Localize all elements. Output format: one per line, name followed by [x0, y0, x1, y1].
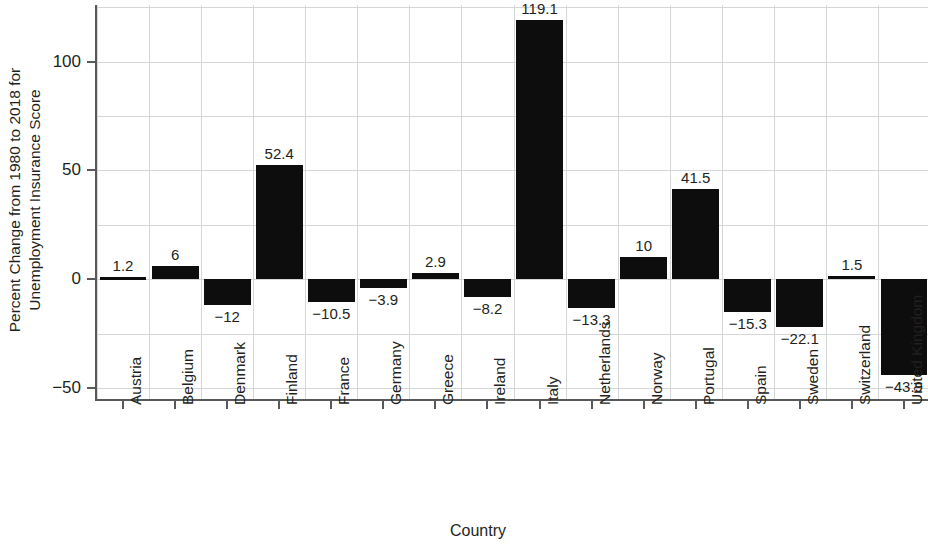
gridline-horizontal-minor [97, 7, 928, 8]
gridline-horizontal-major [97, 170, 928, 171]
gridline-vertical [878, 5, 879, 399]
bar [724, 279, 771, 312]
y-axis-tick-label: −50 [52, 378, 81, 398]
bar [412, 273, 459, 279]
y-axis-tick-label: 100 [53, 52, 81, 72]
bar [776, 279, 823, 327]
plot-area: 100500−50 1.26−1252.4−10.5−3.92.9−8.2119… [95, 5, 928, 401]
bar [516, 20, 563, 279]
x-axis-category-text: Portugal [700, 347, 718, 405]
y-axis-tick-label: 50 [62, 160, 81, 180]
x-axis-category-text: Italy [544, 377, 562, 405]
y-axis-title-line-2: Unemployment Insurance Score [25, 68, 45, 333]
x-axis-category-text: Switzerland [856, 325, 874, 405]
x-axis-category-text: Greece [439, 354, 457, 405]
x-axis-title-text: Country [450, 522, 506, 539]
bar-value-label: 1.2 [113, 257, 134, 274]
gridline-vertical [97, 5, 98, 399]
gridline-vertical [566, 5, 567, 399]
gridline-vertical [253, 5, 254, 399]
x-axis-title: Country [0, 522, 928, 540]
x-axis-category-text: Netherlands [596, 321, 614, 405]
bar-value-label: −3.9 [369, 291, 399, 308]
bar [308, 279, 355, 302]
gridline-vertical [305, 5, 306, 399]
x-axis-category-text: Austria [127, 357, 145, 405]
x-axis-category-text: Sweden [804, 349, 822, 405]
x-axis-category-text: Spain [752, 365, 770, 405]
bar [620, 257, 667, 279]
bar-value-label: 2.9 [425, 253, 446, 270]
gridline-vertical [409, 5, 410, 399]
gridline-vertical [774, 5, 775, 399]
x-axis-category-text: Belgium [179, 349, 197, 405]
bar [152, 266, 199, 279]
bar-value-label: 10 [635, 237, 652, 254]
x-axis-category-text: France [335, 357, 353, 405]
bar [100, 277, 147, 280]
gridline-vertical [670, 5, 671, 399]
gridline-vertical [722, 5, 723, 399]
bar-value-label: 6 [171, 246, 179, 263]
gridline-horizontal-major [97, 62, 928, 63]
gridline-horizontal-minor [97, 116, 928, 117]
x-axis-category-text: Ireland [491, 358, 509, 405]
x-axis-category-text: Denmark [231, 342, 249, 405]
x-axis-category-text: Finland [283, 354, 301, 405]
bar-value-label: 119.1 [521, 0, 557, 17]
x-axis-category-labels: AustriaBelgiumDenmarkFinlandFranceGerman… [95, 405, 928, 525]
y-axis-tick-label: 0 [72, 269, 81, 289]
bar-value-label: −22.1 [781, 330, 819, 347]
bar-value-label: 41.5 [681, 169, 710, 186]
bar [464, 279, 511, 297]
gridline-vertical [357, 5, 358, 399]
bar [256, 165, 303, 279]
y-axis-tick-mark [87, 169, 97, 171]
bar [828, 276, 875, 279]
gridline-vertical [461, 5, 462, 399]
y-axis-tick-mark [87, 61, 97, 63]
bar-chart-figure: Percent Change from 1980 to 2018 for Une… [0, 0, 928, 553]
bar [568, 279, 615, 308]
x-axis-category-text: United Kingdom [908, 295, 926, 405]
bar-value-label: 52.4 [265, 145, 294, 162]
gridline-vertical [826, 5, 827, 399]
bar-value-label: −8.2 [473, 300, 503, 317]
gridline-vertical [149, 5, 150, 399]
bar-value-label: 1.5 [841, 256, 862, 273]
bar [672, 189, 719, 279]
y-axis-title: Percent Change from 1980 to 2018 for Une… [0, 0, 50, 400]
y-axis-title-line-1: Percent Change from 1980 to 2018 for [5, 68, 25, 333]
gridline-vertical [618, 5, 619, 399]
x-axis-category-text: Germany [387, 341, 405, 405]
y-axis-tick-mark [87, 387, 97, 389]
gridline-vertical [201, 5, 202, 399]
gridline-horizontal-minor [97, 225, 928, 226]
y-axis-tick-mark [87, 278, 97, 280]
x-axis-category-text: Norway [648, 352, 666, 405]
bar-value-label: −15.3 [729, 315, 767, 332]
gridline-vertical [514, 5, 515, 399]
bar [204, 279, 251, 305]
bar-value-label: −10.5 [312, 305, 350, 322]
bar [360, 279, 407, 287]
bar-value-label: −12 [214, 308, 239, 325]
